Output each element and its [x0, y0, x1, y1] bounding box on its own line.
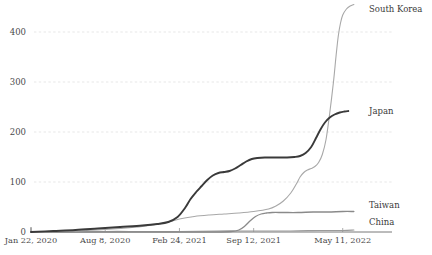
- y-tick-label: 200: [10, 127, 26, 137]
- series-labels: South KoreaJapanTaiwanChina: [368, 4, 422, 227]
- y-tick-label: 300: [10, 77, 26, 87]
- series-label-japan: Japan: [368, 106, 394, 116]
- chart-canvas: 0100200300400 Jan 22, 2020Aug 8, 2020Feb…: [0, 0, 432, 255]
- x-tick-label: Feb 24, 2021: [152, 235, 206, 245]
- series-line-japan: [31, 111, 348, 232]
- x-tick-label: Jan 22, 2020: [4, 235, 58, 245]
- x-tick-label: Sep 12, 2021: [226, 235, 281, 245]
- y-axis-ticks: 0100200300400: [10, 27, 26, 237]
- series-lines: [31, 5, 354, 233]
- x-tick-label: May 11, 2022: [314, 235, 371, 245]
- line-chart: 0100200300400 Jan 22, 2020Aug 8, 2020Feb…: [0, 0, 432, 255]
- series-label-china: China: [369, 217, 394, 227]
- y-tick-label: 400: [10, 27, 26, 37]
- x-tick-label: Aug 8, 2020: [79, 235, 130, 245]
- y-tick-label: 100: [10, 177, 26, 187]
- gridlines: [34, 32, 392, 182]
- series-label-south-korea: South Korea: [369, 4, 422, 14]
- series-label-taiwan: Taiwan: [369, 200, 400, 210]
